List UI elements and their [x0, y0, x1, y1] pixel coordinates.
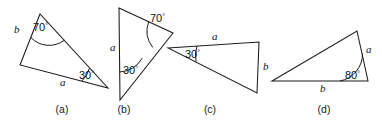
triangle-a-angle-70-label: 70°	[33, 21, 48, 33]
triangles-figure: 70° 30° b a (a) 70° 30° a	[0, 0, 382, 124]
triangle-b-angle-30-label: 30°	[123, 64, 138, 76]
triangle-c-angle-30-label: 30°	[185, 48, 200, 60]
triangle-d-caption: (d)	[318, 103, 331, 115]
triangle-d-side-b-label: b	[320, 82, 326, 94]
figure-canvas: 70° 30° b a (a) 70° 30° a	[0, 0, 382, 124]
triangle-d-group: 80° a b (d)	[272, 31, 372, 115]
triangle-c-side-a-label: a	[212, 30, 218, 42]
triangle-b-angle-70-label: 70°	[150, 12, 165, 24]
triangle-b-side-a-label: a	[110, 41, 116, 53]
triangle-a-side-a-label: a	[60, 76, 66, 88]
triangle-c-outline	[168, 42, 259, 93]
triangle-d-side-a-label: a	[366, 43, 372, 55]
triangle-a-group: 70° 30° b a (a)	[14, 14, 108, 115]
triangle-c-group: 30° a b (c)	[168, 30, 269, 115]
triangle-b-caption: (b)	[118, 103, 131, 115]
triangle-a-angle-30-label: 30°	[79, 69, 94, 81]
triangle-a-caption: (a)	[56, 103, 69, 115]
triangle-d-angle-80-label: 80°	[345, 69, 360, 81]
triangle-a-side-b-label: b	[14, 23, 20, 35]
triangle-b-outline	[119, 8, 173, 100]
triangle-b-angle-70-arc	[147, 22, 153, 48]
triangle-c-caption: (c)	[204, 103, 216, 115]
triangle-a-angle-70-arc	[31, 38, 65, 46]
triangle-c-side-b-label: b	[263, 60, 269, 72]
triangle-b-group: 70° 30° a (b)	[110, 8, 173, 115]
